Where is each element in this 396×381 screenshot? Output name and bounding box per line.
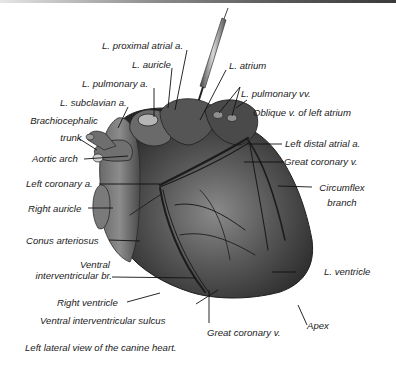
label-circumflex-line1: Circumflex [314, 182, 370, 193]
label-brachiocephalic-trunk: Brachiocephalic trunk [24, 115, 104, 143]
label-left-distal-atrial-a: Left distal atrial a. [285, 138, 360, 149]
label-brachiocephalic-line2: trunk [24, 132, 104, 143]
label-l-ventricle: L. ventricle [324, 266, 370, 277]
label-l-proximal-atrial-a: L. proximal atrial a. [102, 40, 183, 51]
label-right-ventricle: Right ventricle [57, 297, 118, 308]
label-oblique-v-left-atrium: Oblique v. of left atrium [253, 107, 351, 118]
label-apex: Apex [307, 320, 329, 331]
label-aortic-arch: Aortic arch [32, 153, 78, 164]
forceps-icon [195, 8, 228, 112]
label-l-pulmonary-a: L. pulmonary a. [82, 78, 148, 89]
label-ventral-ivb-line2: interventricular br. [26, 270, 112, 281]
label-circumflex-branch: Circumflex branch [314, 182, 370, 208]
figure-caption: Left lateral view of the canine heart. [25, 342, 185, 354]
label-ventral-interventricular-sulcus: Ventral interventricular sulcus [40, 315, 165, 326]
label-great-coronary-v-lower: Great coronary v. [207, 327, 280, 338]
label-brachiocephalic-line1: Brachiocephalic [24, 115, 104, 126]
label-great-coronary-v-upper: Great coronary v. [284, 156, 357, 167]
label-right-auricle: Right auricle [28, 203, 81, 214]
label-l-pulmonary-vv: L. pulmonary vv. [241, 88, 311, 99]
label-ventral-interventricular-br: Ventral interventricular br. [26, 259, 112, 281]
label-l-atrium: L. atrium [229, 60, 266, 71]
label-circumflex-line2: branch [314, 197, 370, 208]
label-ventral-ivb-line1: Ventral [26, 259, 112, 270]
label-l-auricle: L. auricle [132, 59, 171, 70]
label-conus-arteriosus: Conus arteriosus [26, 235, 99, 246]
label-l-subclavian-a: L. subclavian a. [60, 97, 127, 108]
label-left-coronary-a: Left coronary a. [26, 178, 93, 189]
